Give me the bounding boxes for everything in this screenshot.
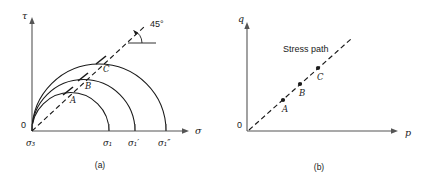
figure-root: τ σ 0 σ₃ σ₁ σ₁′ σ₁″ A B C 45° (a) xyxy=(0,0,430,179)
panel-b-x-axis xyxy=(247,128,398,133)
panel-a-y-axis-label: τ xyxy=(22,10,28,21)
stress-state-dot-c xyxy=(316,66,320,70)
point-label-a: A xyxy=(69,95,76,105)
panel-b-origin-label: 0 xyxy=(237,120,242,130)
point-label-b: B xyxy=(84,81,91,91)
tangency-marker-c xyxy=(96,56,106,64)
tangency-marker-a xyxy=(63,87,73,95)
point-label-b: B xyxy=(298,88,305,98)
panel-b: q p 0 A B C Stress path (b) xyxy=(215,0,430,179)
panel-a-caption: (a) xyxy=(95,160,106,170)
x-axis-arrowhead xyxy=(391,128,398,133)
x-axis-label-sigma1-doubleprime: σ₁″ xyxy=(158,138,171,148)
mohr-circle-2 xyxy=(32,80,135,132)
panel-a-x-axis-label: σ xyxy=(195,125,202,136)
angle-label-45: 45° xyxy=(150,19,164,29)
y-axis-arrowhead xyxy=(29,17,34,24)
x-axis-arrowhead xyxy=(182,128,189,133)
panel-a: τ σ 0 σ₃ σ₁ σ₁′ σ₁″ A B C 45° (a) xyxy=(0,0,215,179)
stress-path-annotation: Stress path xyxy=(283,44,329,54)
stress-state-dot-b xyxy=(298,82,302,86)
panel-b-y-axis xyxy=(244,22,249,131)
x-axis-label-sigma1: σ₁ xyxy=(103,138,112,148)
point-label-a: A xyxy=(281,104,288,114)
point-label-c: C xyxy=(317,72,324,82)
y-axis-arrowhead xyxy=(244,22,249,29)
panel-a-origin-label: 0 xyxy=(21,120,26,130)
panel-b-x-axis-label: p xyxy=(405,127,411,138)
stress-state-dot-a xyxy=(281,98,285,102)
panel-b-caption: (b) xyxy=(314,162,325,172)
panel-b-y-axis-label: q xyxy=(238,13,244,24)
failure-envelope-line xyxy=(32,27,144,131)
x-axis-label-sigma1-prime: σ₁′ xyxy=(128,138,139,148)
x-axis-label-sigma3: σ₃ xyxy=(26,138,36,148)
point-label-c: C xyxy=(103,64,110,74)
